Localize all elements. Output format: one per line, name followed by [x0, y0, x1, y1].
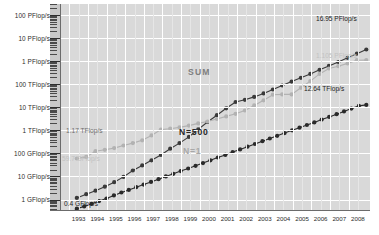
y-tick-minor — [50, 45, 57, 46]
y-tick-minor — [50, 16, 57, 17]
gridline-vertical — [256, 4, 257, 210]
data-point — [335, 112, 339, 116]
gridline-vertical — [69, 4, 70, 210]
y-tick-minor — [50, 8, 57, 9]
y-tick-minor — [50, 62, 57, 63]
gridline-vertical-minor — [321, 4, 322, 210]
gridline-vertical-minor — [79, 4, 80, 210]
y-axis-labels: 100 PFlop/s10 PFlop/s1 PFlop/s100 TFlop/… — [0, 0, 50, 235]
y-axis-spine — [60, 4, 61, 211]
plot-area — [61, 4, 370, 210]
gridline-vertical — [311, 4, 312, 210]
y-tick-minor — [50, 86, 57, 87]
y-tick-minor — [50, 77, 57, 78]
x-axis-spine — [50, 210, 370, 211]
y-tick-minor — [50, 160, 57, 161]
y-tick-minor — [50, 170, 57, 171]
y-tick-minor — [50, 154, 57, 155]
gridline-vertical-minor — [358, 4, 359, 210]
annotation-sum-start: 1.17 TFlop/s — [66, 127, 103, 135]
gridline-vertical-minor — [228, 4, 229, 210]
y-axis-tick-label: 1 GFlop/s — [1, 196, 50, 203]
data-point — [312, 120, 316, 124]
gridline-vertical-minor — [172, 4, 173, 210]
y-tick-minor — [50, 31, 57, 32]
x-axis-tick-label: 2008 — [343, 214, 373, 223]
y-tick-minor — [50, 203, 57, 204]
y-tick-minor — [50, 91, 57, 92]
series-n-1 — [75, 58, 369, 161]
y-tick-minor — [50, 42, 57, 43]
gridline-vertical — [274, 4, 275, 210]
top500-performance-chart: 100 PFlop/s10 PFlop/s1 PFlop/s100 TFlop/… — [0, 0, 379, 235]
y-tick-minor — [50, 134, 57, 135]
gridline-vertical-minor — [339, 4, 340, 210]
y-tick-minor — [50, 133, 57, 134]
gridline-vertical — [88, 4, 89, 210]
gridline-vertical — [200, 4, 201, 210]
gridline-vertical — [181, 4, 182, 210]
y-tick-minor — [50, 193, 57, 194]
y-tick-minor — [50, 100, 57, 101]
y-tick-minor — [50, 17, 57, 18]
y-tick-minor — [50, 88, 57, 89]
y-tick-minor — [50, 202, 57, 203]
y-axis-tick-label: 10 GFlop/s — [1, 173, 50, 180]
data-point — [119, 190, 123, 194]
y-tick-minor — [50, 65, 57, 66]
y-axis-tick-label: 10 PFlop/s — [1, 35, 50, 42]
y-tick-minor — [50, 165, 57, 166]
y-tick-minor — [50, 43, 57, 44]
y-axis-tick-label: 100 PFlop/s — [1, 12, 50, 19]
gridline-vertical-minor — [265, 4, 266, 210]
y-tick-minor — [50, 206, 57, 207]
y-tick-minor — [50, 178, 57, 179]
gridline-vertical — [107, 4, 108, 210]
y-tick-minor — [50, 54, 57, 55]
y-tick-minor — [50, 182, 57, 183]
y-tick-minor — [50, 186, 57, 187]
y-axis-tick-label: 1 PFlop/s — [1, 58, 50, 65]
y-tick-minor — [50, 40, 57, 41]
data-point — [364, 47, 368, 51]
gridline-vertical — [162, 4, 163, 210]
y-tick-minor — [50, 146, 57, 147]
y-tick-minor — [50, 189, 57, 190]
x-axis-labels: 1993199419951996199719981999200020012002… — [0, 214, 379, 226]
data-point — [127, 188, 131, 192]
y-tick-minor — [50, 137, 57, 138]
gridline-vertical-minor — [153, 4, 154, 210]
y-tick-minor — [50, 20, 57, 21]
gridline-vertical — [330, 4, 331, 210]
gridline-vertical-minor — [135, 4, 136, 210]
gridline-vertical-minor — [283, 4, 284, 210]
gridline-vertical — [293, 4, 294, 210]
gridline-vertical-minor — [246, 4, 247, 210]
data-point — [275, 134, 279, 138]
y-tick-minor — [50, 96, 57, 97]
annotation-n1-label: N=1 — [183, 147, 201, 155]
annotation-sum-end: 16.95 PFlop/s — [316, 15, 357, 23]
y-tick-minor — [50, 50, 57, 51]
y-tick-minor — [50, 179, 57, 180]
y-tick-minor — [50, 4, 57, 5]
gridline-vertical — [144, 4, 145, 210]
y-tick-minor — [50, 135, 57, 136]
y-tick-minor — [50, 22, 57, 23]
gridline-vertical — [125, 4, 126, 210]
y-tick-minor — [50, 140, 57, 141]
y-tick-minor — [50, 47, 57, 48]
y-tick-minor — [50, 201, 57, 202]
y-tick-minor — [50, 116, 57, 117]
gridline-vertical — [349, 4, 350, 210]
y-tick-minor — [50, 93, 57, 94]
gridline-vertical-minor — [97, 4, 98, 210]
annotation-n500-start: 0.4 GFlop/s — [64, 200, 98, 208]
y-tick-minor — [50, 63, 57, 64]
y-tick-minor — [50, 66, 57, 67]
y-tick-minor — [50, 108, 57, 109]
gridline-vertical-minor — [302, 4, 303, 210]
gridline-vertical-minor — [116, 4, 117, 210]
y-axis-tick-label: 1 TFlop/s — [1, 127, 50, 134]
y-tick-minor — [50, 89, 57, 90]
